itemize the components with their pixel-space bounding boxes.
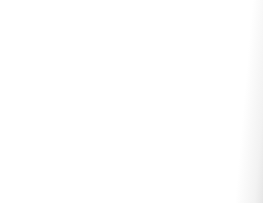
figure-panel: A B C D FIG. 2.1 [0, 0, 263, 203]
page-edge-shadow [254, 0, 255, 203]
nucleolus-a [68, 44, 72, 48]
page-rule-right [251, 2, 252, 198]
cell-diagram-b [136, 9, 216, 89]
page-rule-top [0, 2, 252, 3]
cell-diagram-d [140, 96, 206, 192]
panel-label-c: C [10, 131, 20, 144]
cell-diagram-a [28, 7, 112, 91]
nucleus-a [65, 39, 78, 52]
panel-label-b: B [219, 40, 228, 53]
nucleus-b [170, 27, 182, 39]
nucleolus-b [173, 31, 177, 35]
figure-caption: FIG. 2.1 [9, 192, 49, 203]
cell-diagram-c [30, 98, 112, 180]
panel-label-d: D [211, 141, 221, 154]
panel-label-a: A [10, 40, 20, 53]
polar-body-c [65, 101, 74, 110]
